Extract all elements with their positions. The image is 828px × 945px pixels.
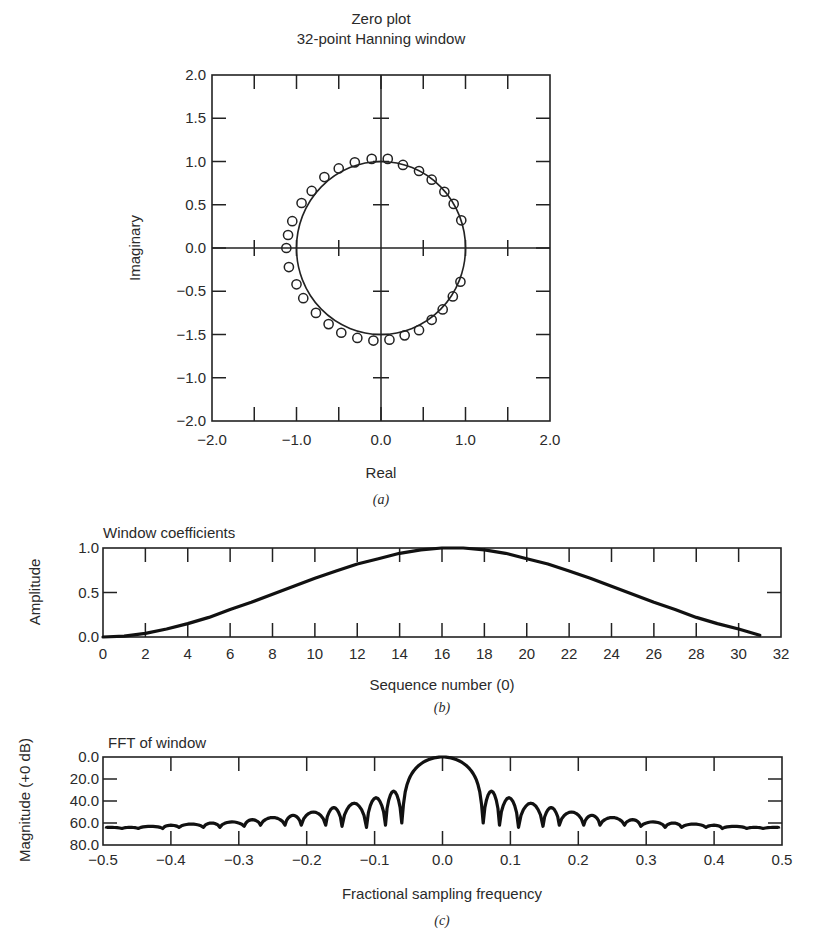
- panel-b-xtick-label: 4: [184, 645, 192, 662]
- panel-b-xlabel: Sequence number (0): [369, 676, 514, 693]
- panel-b-title: Window coefficients: [103, 524, 235, 541]
- panel-c-xtick-label: −0.4: [156, 851, 186, 868]
- panel-b-xtick-label: 18: [476, 645, 493, 662]
- zero-marker: [288, 217, 297, 226]
- panel-a-ytick-label: 0.5: [185, 196, 206, 213]
- panel-a-ytick-label: −2.0: [176, 412, 206, 429]
- panel-c-ytick-label: 40.0: [70, 792, 99, 809]
- panel-c-xtick-label: −0.2: [292, 851, 322, 868]
- panel-b-xtick-label: 28: [688, 645, 705, 662]
- zero-marker: [284, 262, 293, 271]
- panel-b-caption: (b): [434, 700, 451, 716]
- panel-b-xtick-label: 24: [603, 645, 620, 662]
- panel-a-title: Zero plot: [351, 10, 411, 27]
- panel-c-xtick-label: 0.2: [568, 851, 589, 868]
- panel-b-xtick-label: 16: [434, 645, 451, 662]
- panel-b-xtick-label: 2: [141, 645, 149, 662]
- panel-c-xtick-label: 0.4: [704, 851, 725, 868]
- zero-marker: [292, 280, 301, 289]
- zero-marker: [385, 335, 394, 344]
- panel-a: [212, 75, 550, 421]
- panel-b-xtick-label: 6: [226, 645, 234, 662]
- zero-marker: [400, 331, 409, 340]
- panel-c-xlabel: Fractional sampling frequency: [342, 885, 543, 902]
- panel-b-ylabel: Amplitude: [26, 559, 43, 626]
- zero-marker: [311, 308, 320, 317]
- zero-marker: [297, 198, 306, 207]
- panel-a-ytick-label: 1.0: [185, 153, 206, 170]
- panel-c-xtick-label: 0.0: [432, 851, 453, 868]
- zero-marker: [320, 172, 329, 181]
- panel-a-ylabel: Imaginary: [126, 215, 143, 281]
- panel-c-title: FFT of window: [108, 734, 206, 751]
- panel-a-xtick-label: 2.0: [540, 431, 561, 448]
- panel-b-xtick-label: 8: [268, 645, 276, 662]
- panel-b-xtick-label: 14: [391, 645, 408, 662]
- panel-a-caption: (a): [373, 492, 390, 508]
- panel-c-ytick-label: 80.0: [70, 836, 99, 853]
- panel-c-xtick-label: −0.3: [224, 851, 254, 868]
- panel-b-ytick-label: 1.0: [78, 539, 99, 556]
- panel-b-xtick-label: 12: [349, 645, 366, 662]
- panel-b-ytick-label: 0.5: [78, 584, 99, 601]
- panel-b-xtick-label: 10: [307, 645, 324, 662]
- zero-marker: [299, 294, 308, 303]
- panel-c-xtick-label: −0.1: [360, 851, 390, 868]
- panel-a-ytick-label: −0.5: [176, 282, 206, 299]
- panel-a-ytick-label: −1.5: [176, 326, 206, 343]
- panel-a-xtick-label: −2.0: [197, 431, 227, 448]
- panel-a-ytick-label: 0.0: [185, 239, 206, 256]
- figure: Zero plot32-point Hanning window−2.0−1.0…: [0, 0, 828, 945]
- panel-c-xtick-label: 0.5: [772, 851, 793, 868]
- panel-c-ylabel: Magnitude (+0 dB): [16, 738, 33, 862]
- panel-b-ytick-label: 0.0: [78, 628, 99, 645]
- panel-b-xtick-label: 20: [518, 645, 535, 662]
- panel-a-subtitle: 32-point Hanning window: [297, 30, 466, 47]
- zero-marker: [324, 320, 333, 329]
- panel-c-xtick-label: −0.5: [88, 851, 118, 868]
- panel-b-xtick-label: 32: [773, 645, 790, 662]
- panel-c-ytick-label: 20.0: [70, 770, 99, 787]
- zero-marker: [337, 328, 346, 337]
- zero-marker: [283, 230, 292, 239]
- panel-c-ytick-label: 60.0: [70, 814, 99, 831]
- panel-b-xtick-label: 26: [646, 645, 663, 662]
- panel-a-ytick-label: 1.5: [185, 109, 206, 126]
- panel-a-ytick-label: 2.0: [185, 66, 206, 83]
- zero-marker: [334, 164, 343, 173]
- zero-marker: [369, 336, 378, 345]
- panel-c-xtick-label: 0.1: [500, 851, 521, 868]
- panel-c-ytick-label: 0.0: [78, 748, 99, 765]
- panel-b-xtick-label: 30: [730, 645, 747, 662]
- panel-a-ytick-label: −1.0: [176, 369, 206, 386]
- zero-marker: [414, 326, 423, 335]
- panel-a-xtick-label: 0.0: [371, 431, 392, 448]
- zero-marker: [353, 333, 362, 342]
- panel-b-curve: [103, 548, 760, 637]
- panel-a-xlabel: Real: [366, 464, 397, 481]
- panel-a-xtick-label: 1.0: [455, 431, 476, 448]
- panel-c-xtick-label: 0.3: [636, 851, 657, 868]
- panel-a-xtick-label: −1.0: [282, 431, 312, 448]
- panel-b-xtick-label: 0: [99, 645, 107, 662]
- panel-c-caption: (c): [434, 913, 450, 929]
- panel-b: [103, 548, 781, 637]
- panel-c: [103, 757, 782, 845]
- panel-b-xtick-label: 22: [561, 645, 578, 662]
- zero-marker: [307, 186, 316, 195]
